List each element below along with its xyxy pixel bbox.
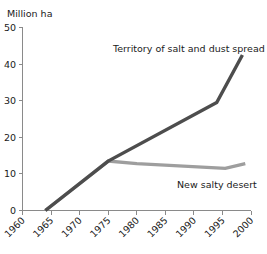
y-tick-label-10: 10: [4, 168, 16, 179]
x-axis-ticks: [23, 211, 252, 216]
x-tick-label-1990: 1990: [173, 215, 198, 240]
x-tick-label-1995: 1995: [202, 215, 227, 240]
x-tick-label-1975: 1975: [88, 215, 113, 240]
series-label-new-salty-desert: New salty desert: [177, 179, 257, 190]
x-tick-label-2000: 2000: [231, 215, 256, 240]
x-tick-label-1985: 1985: [145, 215, 170, 240]
x-tick-label-1965: 1965: [31, 215, 56, 240]
y-tick-label-40: 40: [4, 59, 16, 70]
y-axis-unit-label: Million ha: [7, 8, 52, 19]
x-axis-tick-labels: 1960 1965 1970 1975 1980 1985 1990 1995 …: [2, 215, 255, 240]
y-axis-tick-labels: 50 40 30 20 10 0: [4, 22, 16, 216]
x-tick-label-1960: 1960: [2, 215, 27, 240]
chart-canvas: Million ha 50 40 30 20 10 0: [0, 0, 267, 254]
y-tick-label-30: 30: [4, 95, 16, 106]
line-chart: Million ha 50 40 30 20 10 0: [0, 0, 267, 254]
y-tick-label-50: 50: [4, 22, 16, 33]
x-tick-label-1980: 1980: [116, 215, 141, 240]
y-axis-ticks: [19, 28, 23, 211]
y-tick-label-20: 20: [4, 132, 16, 143]
x-tick-label-1970: 1970: [59, 215, 84, 240]
series-label-territory-of-salt-and-dust-spread: Territory of salt and dust spread: [112, 43, 265, 54]
y-tick-label-0: 0: [10, 205, 16, 216]
